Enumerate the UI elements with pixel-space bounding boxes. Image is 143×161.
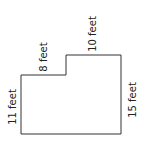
step-top-label: 8 feet (38, 42, 49, 71)
top-side-label: 10 feet (87, 16, 98, 52)
l-shape-outline (21, 55, 121, 134)
left-side-label: 11 feet (7, 89, 18, 125)
right-side-label: 15 feet (127, 82, 138, 118)
l-shape-diagram: 11 feet 8 feet 10 feet 15 feet (0, 0, 143, 161)
